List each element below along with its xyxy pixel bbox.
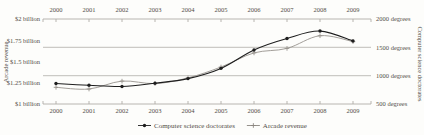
legend: Computer science doctoratesArcade revenu… bbox=[138, 122, 307, 130]
legend-label: Computer science doctorates bbox=[154, 122, 235, 130]
left-tick-label: $1.5 billion bbox=[10, 58, 41, 65]
data-point-arcade-revenue-2002 bbox=[120, 79, 125, 84]
series-line-arcade-revenue bbox=[56, 36, 353, 90]
top-year-label: 2002 bbox=[116, 6, 129, 13]
bottom-year-label: 2001 bbox=[83, 107, 96, 114]
top-year-label: 2008 bbox=[314, 6, 327, 13]
data-point-arcade-revenue-2001 bbox=[87, 87, 92, 92]
left-tick-label: $1.25 billion bbox=[7, 79, 41, 86]
left-tick-label: $1 billion bbox=[15, 100, 41, 107]
bottom-year-label: 2008 bbox=[314, 107, 327, 114]
legend-marker-icon bbox=[251, 123, 256, 128]
top-year-label: 2000 bbox=[50, 6, 63, 13]
line-chart-canvas: 2000200020012001200220022003200320042004… bbox=[0, 0, 424, 135]
right-tick-label: 1000 degrees bbox=[376, 72, 411, 79]
data-point-computer-science-doctorates-2005 bbox=[219, 67, 222, 70]
series-arcade-revenue bbox=[54, 33, 356, 91]
top-year-label: 2009 bbox=[347, 6, 360, 13]
legend-marker-icon bbox=[143, 124, 146, 127]
data-point-computer-science-doctorates-2008 bbox=[318, 29, 321, 32]
left-tick-label: $1.75 billion bbox=[7, 37, 41, 44]
data-point-computer-science-doctorates-2000 bbox=[54, 82, 57, 85]
top-year-label: 2006 bbox=[248, 6, 262, 13]
right-tick-label: 1500 degrees bbox=[376, 44, 411, 51]
legend-item-arcade-revenue: Arcade revenue bbox=[247, 122, 307, 130]
right-tick-label: 500 degrees bbox=[376, 100, 408, 107]
data-point-arcade-revenue-2007 bbox=[285, 46, 290, 51]
bottom-year-label: 2005 bbox=[215, 107, 228, 114]
left-axis-title: Arcade revenue bbox=[2, 41, 9, 82]
bottom-year-label: 2003 bbox=[149, 107, 162, 114]
bottom-year-label: 2006 bbox=[248, 107, 262, 114]
bottom-year-label: 2000 bbox=[50, 107, 63, 114]
right-tick-label: 2000 degrees bbox=[376, 15, 411, 22]
right-axis-title: Computer science doctorates bbox=[417, 26, 424, 102]
top-year-label: 2003 bbox=[149, 6, 162, 13]
bottom-year-label: 2009 bbox=[347, 107, 360, 114]
legend-label: Arcade revenue bbox=[263, 122, 307, 130]
bottom-year-label: 2002 bbox=[116, 107, 129, 114]
data-point-arcade-revenue-2008 bbox=[318, 33, 323, 38]
bottom-year-label: 2004 bbox=[182, 107, 196, 114]
top-year-label: 2007 bbox=[281, 6, 295, 13]
top-year-label: 2001 bbox=[83, 6, 96, 13]
bottom-year-label: 2007 bbox=[281, 107, 295, 114]
dual-axis-correlation-chart: 2000200020012001200220022003200320042004… bbox=[0, 0, 424, 135]
legend-item-computer-science-doctorates: Computer science doctorates bbox=[138, 122, 235, 130]
left-tick-label: $2 billion bbox=[15, 15, 41, 22]
data-point-computer-science-doctorates-2007 bbox=[285, 37, 288, 40]
data-point-computer-science-doctorates-2003 bbox=[153, 82, 156, 85]
data-point-computer-science-doctorates-2002 bbox=[120, 85, 123, 88]
top-year-label: 2004 bbox=[182, 6, 196, 13]
data-point-computer-science-doctorates-2009 bbox=[351, 39, 354, 42]
top-year-label: 2005 bbox=[215, 6, 228, 13]
data-point-computer-science-doctorates-2001 bbox=[87, 84, 90, 87]
data-point-arcade-revenue-2000 bbox=[54, 85, 59, 90]
series-computer-science-doctorates bbox=[54, 29, 354, 88]
data-point-computer-science-doctorates-2006 bbox=[252, 48, 255, 51]
data-point-computer-science-doctorates-2004 bbox=[186, 77, 189, 80]
